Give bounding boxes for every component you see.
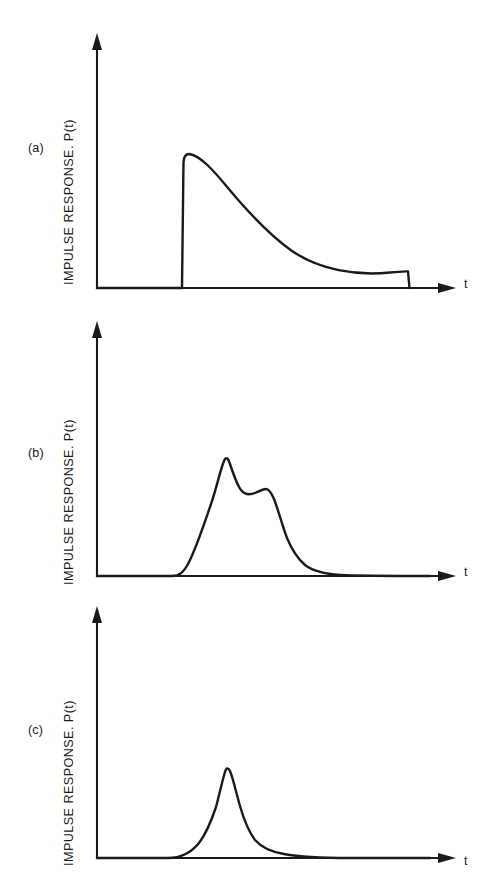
panel-a: (a) IMPULSE RESPONSE. P(t) t [0,0,490,293]
panel-b-plot [0,293,490,586]
panel-a-x-axis-arrow-icon [438,283,456,293]
panel-c: (c) IMPULSE RESPONSE. P(t) t [0,586,490,879]
impulse-response-figure: (a) IMPULSE RESPONSE. P(t) t (b) IMPULSE… [0,0,490,881]
panel-a-y-axis-arrow-icon [92,33,102,50]
panel-a-plot [0,0,490,293]
panel-a-curve [97,154,410,288]
panel-b-curve [97,458,430,576]
panel-b: (b) IMPULSE RESPONSE. P(t) t [0,293,490,586]
panel-c-curve [97,768,430,858]
panel-b-y-axis-arrow-icon [92,321,102,338]
panel-c-y-axis-arrow-icon [92,606,102,623]
panel-b-x-axis-arrow-icon [438,571,456,581]
panel-c-plot [0,586,490,879]
panel-c-x-axis-arrow-icon [438,853,456,863]
